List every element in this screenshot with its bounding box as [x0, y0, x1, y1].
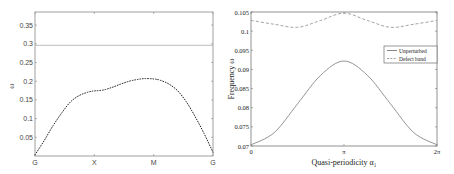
legend-label-unperturbed: Unperturbed — [399, 48, 427, 54]
y-tick-label: 0.105 — [234, 9, 249, 16]
y-tick-label: 0.35 — [19, 22, 33, 29]
defect-band-curve — [251, 13, 437, 27]
x-tick-label: π — [342, 148, 346, 155]
y-tick-label: 0.2 — [23, 78, 33, 85]
left-y-axis-label: ω — [7, 83, 16, 88]
y-tick-label: 0.1 — [23, 115, 33, 122]
right-axes-frame — [251, 12, 437, 146]
x-tick-label: 2π — [434, 148, 441, 155]
right-x-ticks: 0π2π — [249, 12, 441, 155]
left-y-ticks: 0.050.10.150.20.250.30.35 — [19, 22, 213, 141]
unperturbed-curve — [251, 61, 437, 145]
y-tick-label: 0.07 — [238, 143, 250, 150]
y-tick-label: 0.3 — [23, 40, 33, 47]
y-tick-label: 0.095 — [234, 47, 249, 54]
x-tick-label: G — [210, 159, 215, 166]
left-dispersion-curve — [35, 79, 213, 155]
right-x-axis-label: Quasi-periodicity α₁ — [312, 158, 377, 167]
left-axes-frame — [35, 12, 213, 156]
x-tick-label: M — [151, 159, 157, 166]
right-chart: 0.070.0750.080.0850.090.0950.10.105 0π2π… — [227, 9, 441, 168]
y-tick-label: 0.05 — [19, 134, 33, 141]
right-y-ticks: 0.070.0750.080.0850.090.0950.10.105 — [234, 9, 437, 150]
y-tick-label: 0.085 — [234, 85, 249, 92]
x-tick-label: X — [92, 159, 97, 166]
x-tick-label: 0 — [249, 148, 252, 155]
y-tick-label: 0.25 — [19, 59, 33, 66]
y-tick-label: 0.1 — [241, 28, 249, 35]
y-tick-label: 0.09 — [238, 66, 249, 73]
y-tick-label: 0.075 — [234, 123, 249, 130]
legend: Unperturbed Defect band — [384, 46, 437, 63]
y-tick-label: 0.08 — [238, 104, 249, 111]
left-chart: 0.050.10.150.20.250.30.35 GXMG ω — [7, 12, 216, 166]
x-tick-label: G — [32, 159, 37, 166]
y-tick-label: 0.15 — [19, 96, 33, 103]
right-y-axis-label: Frequency ω — [227, 58, 236, 99]
left-x-ticks: GXMG — [32, 12, 215, 166]
figure: 0.050.10.150.20.250.30.35 GXMG ω 0.070.0… — [0, 0, 454, 174]
legend-label-defect: Defect band — [399, 56, 426, 62]
